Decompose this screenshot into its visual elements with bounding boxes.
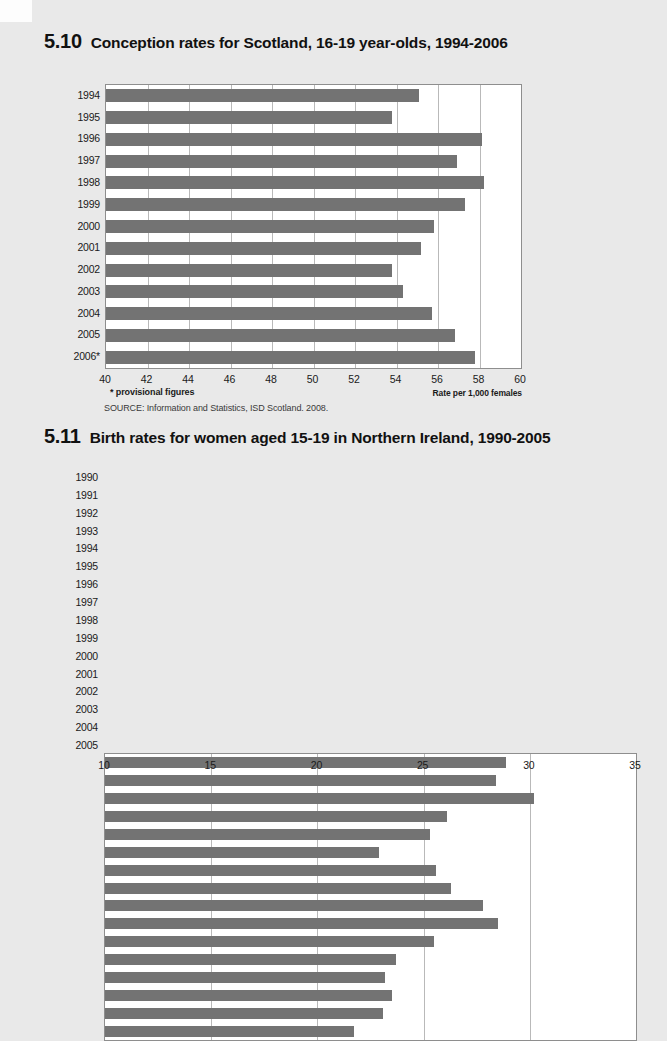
x-axis-tick-label: 10: [98, 759, 109, 771]
y-axis-label: 2005: [77, 328, 100, 340]
chart-5-11-plot-area: [104, 753, 637, 1041]
bar: [105, 918, 498, 929]
bar: [105, 865, 436, 876]
bar: [105, 1008, 383, 1019]
chart-5-11-y-axis-labels: 1990199119921993199419951996199719981999…: [40, 468, 98, 756]
y-axis-label: 2001: [77, 241, 100, 253]
y-axis-label: 1992: [75, 507, 98, 519]
bar: [106, 89, 419, 102]
bar: [105, 1026, 354, 1037]
y-axis-label: 2001: [75, 668, 98, 680]
bar: [105, 883, 451, 894]
bar: [106, 198, 465, 211]
figure-5-11-number: 5.11: [44, 425, 81, 448]
bar: [105, 847, 379, 858]
figure-5-11: 5.11 Birth rates for women aged 15-19 in…: [44, 425, 664, 448]
bar: [106, 242, 421, 255]
x-axis-tick-label: 15: [205, 759, 216, 771]
y-axis-label: 2004: [77, 307, 100, 319]
x-axis-tick-label: 30: [523, 759, 534, 771]
bar: [106, 351, 475, 364]
bar: [106, 285, 403, 298]
y-axis-label: 1996: [75, 578, 98, 590]
chart-5-10-plot-area: [105, 84, 522, 369]
y-axis-label: 1996: [77, 132, 100, 144]
y-axis-label: 1999: [77, 198, 100, 210]
y-axis-label: 1994: [77, 89, 100, 101]
y-axis-label: 1997: [75, 596, 98, 608]
figure-5-11-caption: Birth rates for women aged 15-19 in Nort…: [90, 429, 551, 447]
bar: [105, 829, 430, 840]
figure-5-11-title: 5.11 Birth rates for women aged 15-19 in…: [44, 425, 664, 448]
bar: [105, 972, 385, 983]
y-axis-label: 1995: [75, 560, 98, 572]
bar: [105, 990, 392, 1001]
bar: [105, 936, 434, 947]
y-axis-label: 2004: [75, 721, 98, 733]
y-axis-label: 1994: [75, 542, 98, 554]
figure-5-10-title: 5.10 Conception rates for Scotland, 16-1…: [44, 30, 644, 53]
bar: [106, 307, 432, 320]
y-axis-label: 1997: [77, 154, 100, 166]
x-axis-tick-label: 35: [629, 759, 640, 771]
chart-5-10-source: SOURCE: Information and Statistics, ISD …: [104, 403, 328, 413]
bar: [106, 220, 434, 233]
bar: [105, 900, 483, 911]
x-axis-tick-label: 40: [99, 373, 110, 385]
x-axis-tick-label: 44: [182, 373, 193, 385]
x-axis-tick-label: 60: [514, 373, 525, 385]
bar: [106, 264, 392, 277]
bar: [106, 329, 455, 342]
y-axis-label: 2006*: [74, 350, 100, 362]
x-axis-tick-label: 46: [224, 373, 235, 385]
bar: [106, 176, 484, 189]
bar: [105, 954, 396, 965]
bar: [106, 155, 457, 168]
bar: [105, 775, 496, 786]
y-axis-label: 2000: [75, 650, 98, 662]
x-axis-tick-label: 48: [265, 373, 276, 385]
bar: [105, 811, 447, 822]
chart-5-10-y-axis-labels: 1994199519961997199819992000200120022003…: [45, 84, 100, 369]
y-axis-label: 1999: [75, 632, 98, 644]
y-axis-label: 1998: [75, 614, 98, 626]
x-axis-tick-label: 58: [473, 373, 484, 385]
x-axis-tick-label: 50: [307, 373, 318, 385]
bar: [106, 133, 482, 146]
chart-5-10-axis-caption: Rate per 1,000 females: [372, 388, 522, 398]
figure-5-10-caption: Conception rates for Scotland, 16-19 yea…: [91, 34, 508, 52]
y-axis-label: 1995: [77, 111, 100, 123]
y-axis-label: 2003: [75, 703, 98, 715]
x-axis-tick-label: 42: [141, 373, 152, 385]
y-axis-label: 1991: [75, 489, 98, 501]
figure-5-10-number: 5.10: [44, 30, 82, 53]
gridline: [438, 85, 439, 368]
y-axis-label: 2002: [77, 263, 100, 275]
chart-5-10-footnote: * provisional figures: [110, 387, 194, 397]
gridline: [480, 85, 481, 368]
page-edge-corner: [0, 0, 32, 22]
x-axis-tick-label: 52: [348, 373, 359, 385]
x-axis-tick-label: 54: [390, 373, 401, 385]
x-axis-tick-label: 25: [417, 759, 428, 771]
y-axis-label: 1998: [77, 176, 100, 188]
x-axis-tick-label: 20: [311, 759, 322, 771]
x-axis-tick-label: 56: [431, 373, 442, 385]
y-axis-label: 2002: [75, 685, 98, 697]
y-axis-label: 2005: [75, 739, 98, 751]
y-axis-label: 1993: [75, 525, 98, 537]
y-axis-label: 2003: [77, 285, 100, 297]
y-axis-label: 2000: [77, 220, 100, 232]
y-axis-label: 1990: [75, 471, 98, 483]
bar: [106, 111, 392, 124]
chart-5-11-x-axis-ticks: 101520253035: [104, 759, 637, 775]
bar: [105, 793, 534, 804]
figure-5-10: 5.10 Conception rates for Scotland, 16-1…: [44, 30, 644, 53]
